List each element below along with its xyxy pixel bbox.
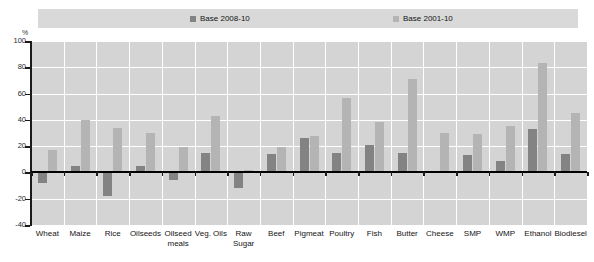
chart-figure: Base 2008-10 Base 2001-10 % WheatMaizeRi…: [0, 0, 594, 262]
y-axis-tick-label: 100: [0, 36, 26, 45]
x-axis-tick-label: Veg. Oils: [195, 229, 228, 239]
y-axis-tick-label: -20: [0, 194, 26, 203]
x-axis-tick-label: Beef: [260, 229, 293, 239]
bar: [506, 126, 515, 172]
bar: [342, 98, 351, 173]
y-axis-tick-label: -40: [0, 220, 26, 229]
gridline-vertical: [260, 41, 261, 225]
gridline-vertical: [391, 41, 392, 225]
gridline-horizontal: [31, 41, 587, 42]
legend-label-base-2001-10: Base 2001-10: [403, 14, 453, 23]
x-axis-tick: [325, 172, 327, 176]
bar: [48, 150, 57, 172]
zero-baseline: [31, 171, 587, 173]
gridline-vertical: [554, 41, 555, 225]
x-axis-tick: [129, 172, 131, 176]
x-axis-tick-label: Raw Sugar: [227, 229, 260, 248]
x-axis-tick-label: Cheese: [423, 229, 456, 239]
x-axis-tick: [391, 172, 393, 176]
gridline-vertical: [227, 41, 228, 225]
bar: [408, 79, 417, 172]
bar: [113, 128, 122, 173]
bar: [310, 136, 319, 173]
gridline-vertical: [522, 41, 523, 225]
bar: [375, 122, 384, 172]
bar: [277, 147, 286, 172]
gridline-vertical: [293, 41, 294, 225]
bar: [463, 155, 472, 172]
x-axis-tick: [358, 172, 360, 176]
legend-swatch-base-2008-10: [190, 16, 196, 22]
bar: [528, 129, 537, 172]
x-axis-tick: [522, 172, 524, 176]
bar: [538, 63, 547, 172]
bar: [473, 134, 482, 172]
x-axis-tick-label: Oilseeds: [129, 229, 162, 239]
gridline-vertical: [96, 41, 97, 225]
x-axis-tick: [423, 172, 425, 176]
x-axis-tick-label: Fish: [358, 229, 391, 239]
gridline-horizontal: [31, 225, 587, 226]
gridline-horizontal: [31, 120, 587, 121]
y-axis-tick-label: 20: [0, 141, 26, 150]
x-axis-tick: [587, 172, 589, 176]
x-axis-tick: [64, 172, 66, 176]
x-axis-tick-label: Butter: [391, 229, 424, 239]
legend-item-base-2001-10: Base 2001-10: [393, 14, 453, 23]
bar: [398, 153, 407, 173]
x-axis-tick-label: SMP: [456, 229, 489, 239]
legend-item-base-2008-10: Base 2008-10: [190, 14, 250, 23]
bar: [81, 120, 90, 173]
x-axis-labels: WheatMaizeRiceOilseedsOilseed mealsVeg. …: [31, 229, 587, 259]
gridline-vertical: [456, 41, 457, 225]
x-axis-tick: [293, 172, 295, 176]
y-axis-unit-label: %: [22, 29, 28, 36]
bar: [211, 116, 220, 173]
gridline-horizontal: [31, 67, 587, 68]
x-axis-tick: [31, 172, 33, 176]
bar: [300, 138, 309, 172]
bar: [571, 113, 580, 172]
bar: [365, 145, 374, 173]
y-axis-line: [30, 41, 32, 226]
x-axis-tick-label: Maize: [64, 229, 97, 239]
bar: [440, 133, 449, 172]
x-axis-tick-label: Poultry: [325, 229, 358, 239]
x-axis-tick-label: Ethanol: [522, 229, 555, 239]
plot-area: [31, 41, 587, 225]
bar: [169, 172, 178, 180]
x-axis-tick: [489, 172, 491, 176]
x-axis-tick: [96, 172, 98, 176]
gridline-vertical: [162, 41, 163, 225]
x-axis-tick-label: WMP: [489, 229, 522, 239]
x-axis-tick: [227, 172, 229, 176]
gridline-vertical: [489, 41, 490, 225]
bar: [38, 172, 47, 183]
x-axis-tick: [554, 172, 556, 176]
gridline-vertical: [325, 41, 326, 225]
legend-swatch-base-2001-10: [393, 16, 399, 22]
gridline-vertical: [423, 41, 424, 225]
x-axis-tick-label: Biodiesel: [554, 229, 587, 239]
x-axis-tick-label: Oilseed meals: [162, 229, 195, 248]
x-axis-tick: [456, 172, 458, 176]
bar: [561, 154, 570, 172]
bar: [332, 153, 341, 173]
x-axis-tick-label: Wheat: [31, 229, 64, 239]
legend-label-base-2008-10: Base 2008-10: [200, 14, 250, 23]
x-axis-tick: [260, 172, 262, 176]
bar: [234, 172, 243, 188]
y-axis-tick-label: 80: [0, 62, 26, 71]
y-axis-tick-label: 0: [0, 167, 26, 176]
bar: [103, 172, 112, 196]
x-axis-tick: [195, 172, 197, 176]
bar: [267, 154, 276, 172]
chart-legend: Base 2008-10 Base 2001-10: [38, 9, 578, 28]
bar: [201, 153, 210, 173]
x-axis-tick-label: Pigmeat: [293, 229, 326, 239]
y-axis-tick-label: 40: [0, 115, 26, 124]
gridline-vertical: [129, 41, 130, 225]
y-axis-tick-label: 60: [0, 89, 26, 98]
gridline-horizontal: [31, 199, 587, 200]
gridline-vertical: [195, 41, 196, 225]
